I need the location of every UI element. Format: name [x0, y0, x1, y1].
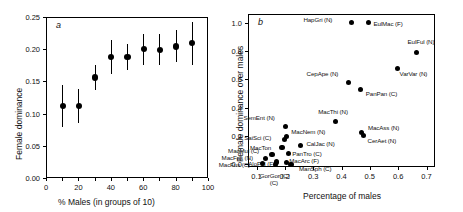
panel-a-y-tick: [43, 178, 46, 179]
panel-b-x-tick-label: 0.3: [308, 172, 318, 181]
panel-b-data-point: [414, 50, 419, 55]
panel-a-x-tick-label: 60: [139, 183, 147, 192]
panel-b-data-point: [269, 152, 274, 157]
figure-container: a Female dominance % Males (in groups of…: [0, 0, 463, 212]
panel-a-x-tick: [208, 178, 209, 181]
panel-b-x-tick: [285, 167, 286, 170]
panel-b-point-label: MacThi (N): [318, 108, 348, 115]
panel-a-y-tick-label: 0.05: [25, 141, 40, 150]
panel-a-x-tick: [46, 178, 47, 181]
panel-a-x-tick: [111, 178, 112, 181]
panel-a-plot-frame: [46, 17, 208, 178]
panel-a-x-tick-label: 20: [74, 183, 82, 192]
panel-a-y-axis-title: Female dominance: [14, 88, 24, 160]
panel-b-point-label: MacFus (C): [219, 161, 250, 168]
panel-b-plot-frame: [248, 14, 435, 167]
panel-b-x-axis-title: Percentage of males: [303, 191, 381, 201]
panel-a-data-point: [157, 47, 163, 53]
panel-a-y-tick: [43, 81, 46, 82]
panel-a-letter: a: [56, 20, 61, 30]
panel-a-x-tick: [78, 178, 79, 181]
panel-b-y-tick-label: 0.6: [232, 75, 242, 84]
panel-a-y-tick-label: 0.20: [25, 45, 40, 54]
panel-a-x-tick: [143, 178, 144, 181]
panel-a-y-tick: [43, 49, 46, 50]
panel-a-x-tick: [62, 178, 63, 181]
panel-a-x-tick: [176, 178, 177, 181]
panel-b-x-tick: [370, 167, 371, 170]
panel-a-data-point: [60, 103, 66, 109]
panel-a-x-tick: [192, 178, 193, 181]
panel-b-y-tick-label: 0.8: [232, 46, 242, 55]
panel-a-data-point: [124, 54, 130, 60]
panel-b-letter: b: [258, 17, 263, 27]
panel-b-x-tick-label: 0.5: [365, 172, 375, 181]
panel-b-data-point: [288, 162, 293, 167]
panel-b-point-label: ManSph (C): [299, 165, 331, 172]
panel-b-point-label: SaiSci (C): [244, 134, 271, 141]
panel-a-y-tick: [43, 17, 46, 18]
panel-a-x-tick-label: 0: [44, 183, 48, 192]
panel-b-y-tick-label: 0.4: [232, 103, 242, 112]
panel-b-x-tick: [342, 167, 343, 170]
panel-a-y-tick-label: 0.15: [25, 77, 40, 86]
panel-b-point-label: EulMac (F): [373, 20, 402, 27]
panel-b-point-label: HapGri (N): [303, 16, 332, 23]
panel-a-x-tick: [159, 178, 160, 181]
panel-a-y-tick-label: 0.10: [25, 109, 40, 118]
panel-a-data-point: [173, 43, 179, 49]
panel-b-y-tick: [245, 51, 248, 52]
panel-a-x-tick: [95, 178, 96, 181]
panel-b-point-label: CepApe (N): [307, 70, 339, 77]
panel-b-point-label: MacArc (F): [289, 157, 319, 164]
panel-b-point-label: SemEnt (N): [243, 114, 274, 121]
panel-a-x-tick-label: 40: [107, 183, 115, 192]
panel-b-y-tick: [245, 23, 248, 24]
panel-a-y-tick: [43, 146, 46, 147]
panel-b-y-tick: [245, 108, 248, 109]
panel-b-data-point: [286, 151, 291, 156]
panel-a-x-tick-label: 100: [202, 183, 215, 192]
panel-b-y-tick-label: 0.2: [232, 131, 242, 140]
panel-a-y-tick-label: 0.00: [25, 174, 40, 183]
panel-a-data-point: [76, 103, 82, 109]
panel-a: a Female dominance % Males (in groups of…: [0, 0, 232, 212]
panel-a-y-tick-label: 0.25: [25, 13, 40, 22]
panel-b-point-label: EulFul (N): [408, 38, 435, 45]
panel-b-data-point: [282, 137, 287, 142]
panel-b-x-tick: [398, 167, 399, 170]
panel-a-x-tick: [127, 178, 128, 181]
panel-b-point-label: VarVar (N): [400, 70, 428, 77]
panel-b-x-tick-label: 0.7: [421, 172, 431, 181]
panel-b-data-point: [366, 20, 371, 25]
panel-b-point-label: CalJac (N): [306, 140, 334, 147]
panel-a-y-tick: [43, 114, 46, 115]
panel-b-point-label: MacAss (N): [368, 124, 399, 131]
panel-b-point-label-cont: (C): [270, 179, 278, 186]
panel-b-point-label: PanTro (C): [292, 150, 321, 157]
panel-b-x-tick-label: 0.6: [393, 172, 403, 181]
panel-b-x-tick: [427, 167, 428, 170]
panel-a-x-tick-label: 80: [171, 183, 179, 192]
panel-b-point-label: PanPan (C): [366, 90, 397, 97]
panel-b-point-label: CerAet (N): [368, 137, 397, 144]
panel-b-y-tick: [245, 79, 248, 80]
panel-b-point-label: MacNem (N): [291, 128, 325, 135]
panel-a-x-axis-title: % Males (in groups of 10): [58, 197, 155, 207]
panel-b-y-tick-label: 1.0: [232, 18, 242, 27]
panel-b-point-label: GorGor (C): [260, 172, 290, 179]
panel-b-x-tick-label: 0.4: [336, 172, 346, 181]
panel-b: b Female dominance over males Percentage…: [232, 0, 463, 212]
panel-b-data-point: [279, 145, 284, 150]
panel-a-data-point: [92, 74, 98, 80]
panel-b-x-tick: [257, 167, 258, 170]
panel-b-data-point: [349, 20, 354, 25]
